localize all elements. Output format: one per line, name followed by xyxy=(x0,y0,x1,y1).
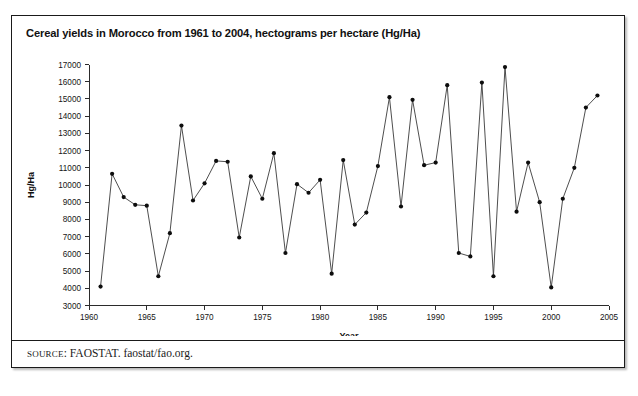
source-note: SOURCE: FAOSTAT. faostat/fao.org. xyxy=(27,347,193,359)
data-point: 1987: 8750 xyxy=(399,204,403,208)
x-tick-label: 1985 xyxy=(369,313,388,322)
y-tick-label: 4000 xyxy=(63,284,82,293)
data-point: 1983: 7700 xyxy=(353,222,357,226)
data-series-cereal-yield: 1961: 41001962: 106501963: 93001964: 885… xyxy=(98,65,599,290)
data-point: 1971: 11400 xyxy=(214,159,218,163)
y-tick-label: 17000 xyxy=(58,61,81,70)
y-tick-label: 8000 xyxy=(63,215,82,224)
data-point: 1992: 6050 xyxy=(457,251,461,255)
data-point: 1980: 10300 xyxy=(318,178,322,182)
data-point: 1984: 8400 xyxy=(364,210,368,214)
data-point: 1961: 4100 xyxy=(98,284,102,288)
data-point: 1974: 10500 xyxy=(249,174,253,178)
x-tick-label: 1980 xyxy=(311,313,330,322)
source-value: : FAOSTAT. faostat/fao.org. xyxy=(64,347,193,359)
data-point: 1975: 9200 xyxy=(260,197,264,201)
y-axis: 3000400050006000700080009000100001100012… xyxy=(58,61,89,311)
y-axis-title: Hg/Ha xyxy=(26,171,36,198)
data-point: 1994: 15950 xyxy=(480,80,484,84)
line-chart: 3000400050006000700080009000100001100012… xyxy=(12,16,626,336)
data-point: 1968: 13450 xyxy=(179,124,183,128)
y-tick-label: 10000 xyxy=(58,181,81,190)
y-tick-label: 7000 xyxy=(63,233,82,242)
plot-area: 3000400050006000700080009000100001100012… xyxy=(12,16,626,336)
y-tick-label: 12000 xyxy=(58,147,81,156)
x-tick-label: 1975 xyxy=(253,313,272,322)
data-point: 1982: 11450 xyxy=(341,158,345,162)
data-point: 2000: 4050 xyxy=(549,285,553,289)
data-point: 2001: 9200 xyxy=(561,197,565,201)
x-tick-label: 1960 xyxy=(80,313,99,322)
y-tick-label: 14000 xyxy=(58,112,81,121)
data-point: 1969: 9100 xyxy=(191,198,195,202)
data-point: 1995: 4700 xyxy=(491,274,495,278)
x-tick-label: 2005 xyxy=(600,313,619,322)
y-tick-label: 11000 xyxy=(59,164,82,173)
data-point: 2003: 14500 xyxy=(584,105,588,109)
figure-frame: Cereal yields in Morocco from 1961 to 20… xyxy=(11,15,625,368)
data-point: 1986: 15100 xyxy=(387,95,391,99)
data-point: 1997: 8450 xyxy=(514,210,518,214)
data-point: 1988: 14950 xyxy=(410,98,414,102)
x-axis-title: Year xyxy=(339,331,359,337)
y-tick-label: 16000 xyxy=(58,78,81,87)
data-point: 1970: 10100 xyxy=(202,181,206,185)
data-point: 1966: 4700 xyxy=(156,274,160,278)
data-point: 1963: 9300 xyxy=(122,195,126,199)
data-point: 1978: 10050 xyxy=(295,182,299,186)
y-tick-label: 13000 xyxy=(58,129,81,138)
data-point: 1990: 11300 xyxy=(434,161,438,165)
data-point: 1973: 6950 xyxy=(237,235,241,239)
data-point: 1999: 9000 xyxy=(538,200,542,204)
x-axis: 1960196519701975198019851990199520002005 xyxy=(80,306,619,322)
data-point: 1996: 16850 xyxy=(503,65,507,69)
x-tick-label: 2000 xyxy=(542,313,561,322)
y-tick-label: 9000 xyxy=(63,198,82,207)
data-point: 2002: 11000 xyxy=(572,166,576,170)
source-label: SOURCE xyxy=(27,349,64,359)
footer-divider xyxy=(12,340,624,341)
data-point: 1985: 11100 xyxy=(376,164,380,168)
data-point: 2004: 15200 xyxy=(595,93,599,97)
y-tick-label: 6000 xyxy=(63,250,82,259)
data-point: 1977: 6050 xyxy=(283,251,287,255)
data-point: 1993: 5850 xyxy=(468,254,472,258)
x-tick-label: 1990 xyxy=(427,313,446,322)
data-point: 1989: 11150 xyxy=(422,163,426,167)
y-tick-label: 3000 xyxy=(63,302,82,311)
x-tick-label: 1965 xyxy=(138,313,157,322)
data-point: 1979: 9550 xyxy=(306,191,310,195)
y-tick-label: 15000 xyxy=(58,95,81,104)
data-point: 1965: 8800 xyxy=(145,204,149,208)
data-point: 1981: 4850 xyxy=(330,272,334,276)
data-point: 1964: 8850 xyxy=(133,203,137,207)
data-point: 1976: 11850 xyxy=(272,151,276,155)
data-point: 1962: 10650 xyxy=(110,172,114,176)
x-tick-label: 1995 xyxy=(484,313,503,322)
data-point: 1998: 11300 xyxy=(526,161,530,165)
data-point: 1967: 7200 xyxy=(168,231,172,235)
x-tick-label: 1970 xyxy=(195,313,214,322)
data-point: 1991: 15800 xyxy=(445,83,449,87)
data-point: 1972: 11350 xyxy=(226,160,230,164)
y-tick-label: 5000 xyxy=(63,267,82,276)
